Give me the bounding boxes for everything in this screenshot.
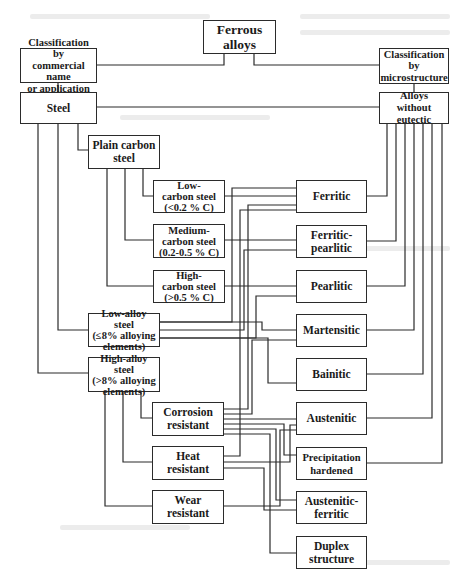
node-classification-microstructure: Classification by microstructure — [379, 48, 449, 84]
node-pearlitic: Pearlitic — [296, 270, 367, 303]
node-plain-carbon-steel: Plain carbon steel — [88, 135, 160, 169]
node-ferrous-alloys: Ferrous alloys — [203, 20, 276, 54]
node-alloys-without-eutectic: Alloys without eutectic — [379, 92, 449, 124]
node-medium-carbon-steel: Medium- carbon steel (0.2-0.5 % C) — [153, 224, 225, 258]
node-wear-resistant: Wear resistant — [152, 490, 224, 524]
node-high-carbon-steel: High- carbon steel (>0.5 % C) — [153, 270, 225, 303]
node-ferritic-pearlitic: Ferritic- pearlitic — [296, 225, 367, 258]
node-bainitic: Bainitic — [296, 358, 367, 391]
node-steel: Steel — [20, 92, 97, 124]
node-martensitic: Martensitic — [296, 314, 367, 347]
node-low-carbon-steel: Low- carbon steel (<0.2 % C) — [153, 180, 225, 213]
node-precipitation-hardened: Precipitation hardened — [296, 447, 367, 480]
node-ferritic: Ferritic — [296, 180, 367, 213]
node-heat-resistant: Heat resistant — [152, 446, 224, 480]
node-high-alloy-steel: High-alloy steel (>8% alloying elements) — [88, 357, 160, 392]
node-austenitic-ferritic: Austenitic- ferritic — [296, 491, 367, 524]
node-corrosion-resistant: Corrosion resistant — [152, 402, 224, 436]
node-classification-commercial: Classification by commercial name or app… — [20, 48, 97, 83]
node-duplex-structure: Duplex structure — [296, 536, 367, 569]
node-austenitic: Austenitic — [296, 402, 367, 435]
node-low-alloy-steel: Low-alloy steel (≤8% alloying elements) — [88, 313, 160, 347]
